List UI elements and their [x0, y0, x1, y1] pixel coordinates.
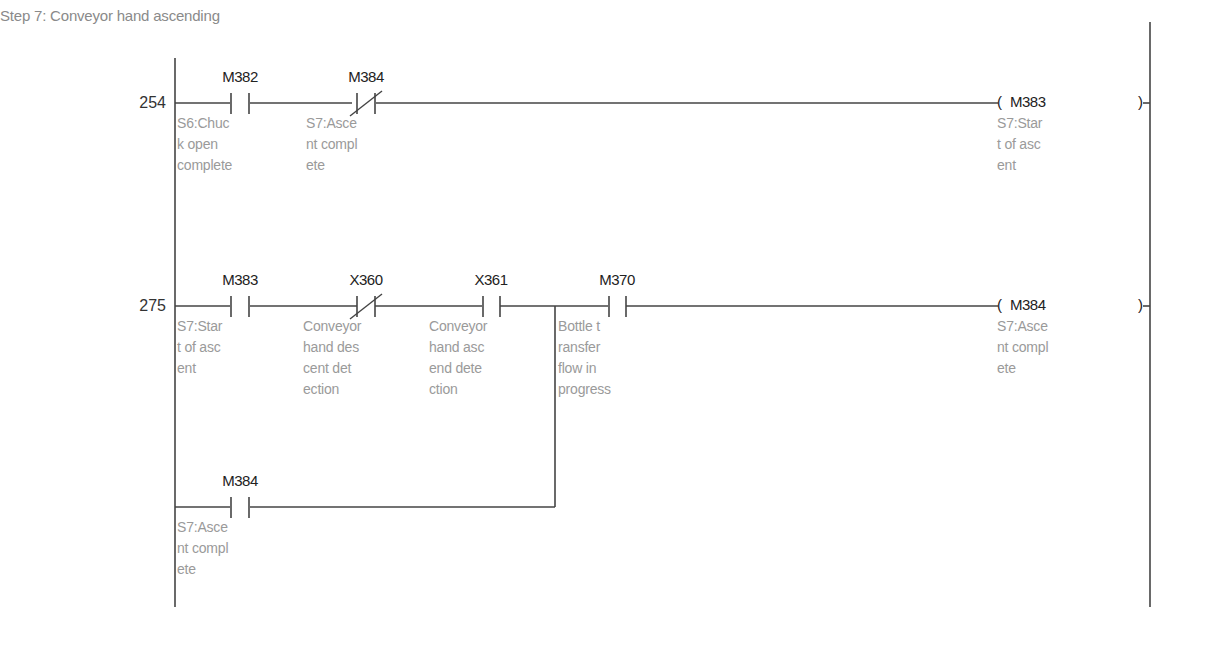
coil-open-paren: (	[997, 296, 1002, 313]
contact-device-label: M383	[210, 271, 270, 288]
contact-device-label: X360	[336, 271, 396, 288]
branch-contact-comment: S7:Asce nt compl ete	[177, 517, 228, 580]
contact-device-label: M384	[336, 68, 396, 85]
contact-comment: Conveyor hand asc end dete ction	[429, 316, 487, 400]
step-number: 275	[126, 297, 166, 315]
coil-close-paren: )	[1138, 93, 1143, 110]
coil-comment: S7:Star t of asc ent	[997, 113, 1042, 176]
branch-contact-device-label: M384	[210, 472, 270, 489]
contact-device-label: M382	[210, 68, 270, 85]
coil-device-label: M383	[1010, 93, 1046, 110]
contact-no-icon	[231, 497, 249, 518]
step-number: 254	[126, 94, 166, 112]
contact-no-icon	[231, 296, 249, 317]
contact-comment: Conveyor hand des cent det ection	[303, 316, 361, 400]
contact-comment: S7:Star t of asc ent	[177, 316, 222, 379]
contact-device-label: X361	[461, 271, 521, 288]
contact-device-label: M370	[587, 271, 647, 288]
contact-comment: Bottle t ransfer flow in progress	[558, 316, 611, 400]
contact-comment: S7:Asce nt compl ete	[306, 113, 357, 176]
coil-device-label: M384	[1010, 296, 1046, 313]
coil-open-paren: (	[997, 93, 1002, 110]
contact-no-icon	[483, 296, 500, 317]
coil-comment: S7:Asce nt compl ete	[997, 316, 1048, 379]
contact-comment: S6:Chuc k open complete	[177, 113, 232, 176]
coil-close-paren: )	[1138, 296, 1143, 313]
contact-no-icon	[609, 296, 626, 317]
contact-no-icon	[231, 93, 249, 114]
